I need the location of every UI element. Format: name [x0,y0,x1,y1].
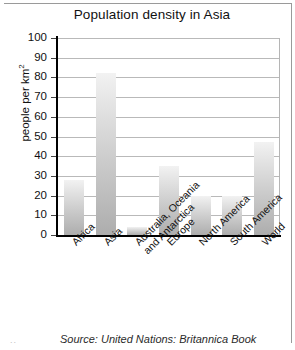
x-axis-labels: AfricaAsiaAustralia, Oceaniaand Antarcti… [0,0,295,350]
corner-mark: .. [10,335,17,345]
source-note: Source: United Nations: Britannica Book [60,333,256,345]
x-axis-label-line: Africa [69,220,96,247]
chart-figure: Population density in Asia people per km… [0,0,295,350]
x-axis-label-line: Asia [101,225,124,248]
x-axis-label: World [260,221,287,248]
x-axis-label-line: World [259,220,287,248]
x-axis-label: Asia [102,226,125,249]
x-axis-label: Africa [70,221,97,248]
